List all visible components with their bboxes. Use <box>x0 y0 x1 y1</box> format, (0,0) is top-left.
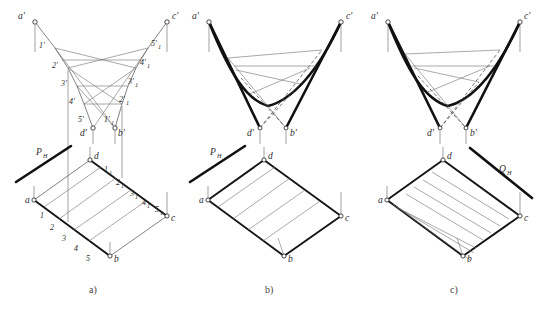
plan-c-ruling-2 <box>400 209 476 248</box>
point-b-a-prime <box>207 20 211 24</box>
b-ruling-3 <box>250 68 310 94</box>
label-a-prime: a' <box>18 11 26 21</box>
label-ruling-5-prime: 5' <box>78 115 84 124</box>
label-c-d-prime: d' <box>427 128 435 138</box>
label-c-a-prime: a' <box>371 11 379 21</box>
trace-b-ph-sub: H <box>216 152 222 159</box>
point-b-a <box>206 198 210 202</box>
trace-ph-label: P H <box>35 147 48 159</box>
point-c-c <box>518 214 522 218</box>
plan-c-ruling-5 <box>423 180 500 226</box>
technical-drawing-figure: a' c' d' b' 1' 2' 3' 4' 5' 1' 1 2' 1 3' … <box>0 0 542 312</box>
label-r3s-base: 3' <box>127 77 134 86</box>
plan-b-ruling-4 <box>263 201 320 241</box>
point-b-d-prime <box>258 126 262 130</box>
edge-c-a-d-prime <box>388 22 440 128</box>
label-ruling-3-prime: 3' <box>60 79 67 88</box>
plan-c-ruling-2b <box>397 207 474 253</box>
point-c-c-prime <box>518 20 522 24</box>
point-c-b <box>461 254 465 258</box>
plan-ruling-4 <box>89 201 146 241</box>
label-r5s-sub: 1 <box>158 43 161 50</box>
ruling-aux-1 <box>55 48 136 68</box>
plan-c-ruling-4 <box>414 187 491 233</box>
plan-ruling-2 <box>59 178 116 219</box>
plan-b-ruling-2 <box>233 178 290 219</box>
curve-left-ad <box>35 22 93 128</box>
point-b-c-prime <box>339 20 343 24</box>
point-b-b-prime <box>284 126 288 130</box>
point-c-b-prime <box>464 126 468 130</box>
b-chord-top <box>228 50 322 58</box>
label-plan-dc-5: 5 1 <box>155 205 163 216</box>
label-ruling-2-prime: 2' <box>52 61 58 70</box>
panel-a-plan: P H a b c d <box>16 146 176 264</box>
plan-c-ruling-3 <box>406 194 483 240</box>
label-dc2-sub: 1 <box>121 182 124 189</box>
trace-ph-sub: H <box>42 152 48 159</box>
plan-c-edge-ab <box>387 200 463 256</box>
edge-c-c-b-prime <box>466 22 520 128</box>
label-r3s-sub: 1 <box>135 81 138 88</box>
label-dc1-sub: 1 <box>109 169 112 176</box>
label-ruling-2-prime-sub: 2' 1 <box>119 95 129 106</box>
c-ruling-4 <box>440 50 500 128</box>
label-r1s-sub: 1 <box>111 119 114 126</box>
trace-b-ph-base: P <box>209 147 216 157</box>
label-dc2-base: 2 <box>116 178 120 187</box>
label-r4s-base: 4' <box>140 58 146 67</box>
panel-c-plan: Q H a b c d <box>378 147 532 264</box>
label-b: b <box>114 254 119 264</box>
label-dc1-base: 1 <box>104 165 108 174</box>
point-c-prime <box>165 20 169 24</box>
label-ruling-1-prime: 1' <box>39 41 45 50</box>
label-plan-ab-2: 2 <box>50 223 54 232</box>
point-b-b <box>282 254 286 258</box>
plan-b-edge-dc <box>264 160 341 216</box>
c-chord-top <box>405 50 500 54</box>
label-c-d: d <box>447 151 452 161</box>
label-c-c: c <box>524 213 529 223</box>
trace-b-ph-label: P H <box>209 147 222 159</box>
plan-b-edge-ab <box>208 200 284 256</box>
label-b-prime: b' <box>118 128 126 138</box>
label-r2s-base: 2' <box>119 95 125 104</box>
label-dc4-sub: 1 <box>147 202 150 209</box>
label-a: a <box>25 195 30 205</box>
label-plan-dc-2: 2 1 <box>116 178 124 189</box>
panel-c: a' c' d' b' Q H <box>371 11 532 296</box>
plan-c-edge-ad <box>387 160 443 200</box>
label-c-c-prime: c' <box>524 11 531 21</box>
point-a-prime <box>33 20 37 24</box>
label-ruling-1-prime-sub: 1' 1 <box>104 115 114 126</box>
panel-a: a' c' d' b' 1' 2' 3' 4' 5' 1' 1 2' 1 3' … <box>16 11 179 296</box>
c-ruling-3 <box>428 66 490 92</box>
label-c-a: a <box>378 195 383 205</box>
panel-b-elevation: a' c' d' b' <box>192 11 353 144</box>
label-r2s-sub: 1 <box>126 99 129 106</box>
label-r4s-sub: 1 <box>147 62 150 69</box>
trace-qh-sub: H <box>506 169 512 176</box>
plan-edge-ab <box>34 200 110 256</box>
edge-a-d-prime <box>209 22 260 128</box>
panel-c-elevation: a' c' d' b' <box>371 11 531 144</box>
plan-edge-bc <box>110 216 167 256</box>
trace-ph-base: P <box>35 147 42 157</box>
label-ruling-5-prime-sub: 5' 1 <box>151 39 161 50</box>
label-b-d: d <box>268 151 273 161</box>
point-c-a <box>385 198 389 202</box>
point-c-d <box>441 158 445 162</box>
caption-c: c) <box>450 284 458 296</box>
label-r5s-base: 5' <box>151 39 157 48</box>
label-c-b-prime: b' <box>470 128 478 138</box>
label-plan-ab-4: 4 <box>74 244 78 253</box>
point-c <box>165 214 169 218</box>
label-ruling-3-prime-sub: 3' 1 <box>127 77 138 88</box>
label-b-b-prime: b' <box>290 128 298 138</box>
label-ruling-4-prime-sub: 4' 1 <box>140 58 150 69</box>
point-a <box>32 198 36 202</box>
label-b-a-prime: a' <box>192 11 200 21</box>
plan-c-ruling-1 <box>393 204 470 260</box>
label-b-c-prime: c' <box>346 11 353 21</box>
label-plan-ab-3: 3 <box>61 234 66 243</box>
